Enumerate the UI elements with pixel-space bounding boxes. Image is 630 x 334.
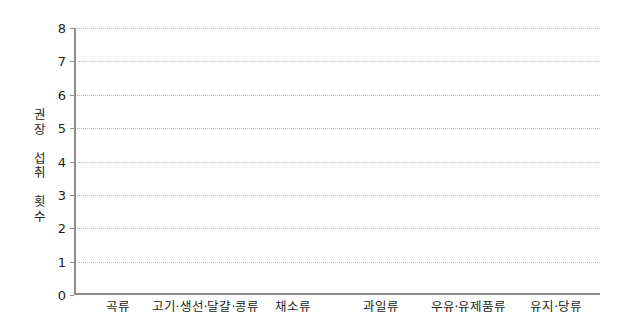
x-axis-labels: 곡류고기·생선·달걀·콩류채소류과일류우유·유제품류유지·당류 — [74, 299, 600, 319]
y-axis-title: 권 장 섭 취 횟 수 — [27, 108, 53, 224]
gridline — [75, 28, 600, 29]
plot-area: 012345678 — [74, 28, 600, 295]
y-axis-tick-label: 3 — [58, 188, 66, 201]
x-axis-line — [74, 293, 600, 295]
x-axis-tick-label: 유지·당류 — [530, 299, 582, 315]
y-axis-tick-label: 6 — [58, 88, 66, 101]
x-axis-tick-label: 과일류 — [363, 299, 399, 315]
y-axis-tick-label: 1 — [58, 255, 66, 268]
y-axis-tick-label: 8 — [58, 22, 66, 35]
gridline — [75, 61, 600, 62]
y-axis-tick-label: 2 — [58, 222, 66, 235]
y-axis-tick-label: 7 — [58, 55, 66, 68]
gridline — [75, 262, 600, 263]
gridline — [75, 128, 600, 129]
gridline — [75, 95, 600, 96]
y-axis-tick-label: 0 — [58, 289, 66, 302]
chart-figure: 권 장 섭 취 횟 수 012345678 곡류고기·생선·달걀·콩류채소류과일… — [0, 0, 630, 334]
y-axis-tick-mark — [70, 295, 74, 296]
x-axis-tick-label: 곡류 — [106, 299, 130, 315]
x-axis-tick-label: 우유·유제품류 — [431, 299, 507, 315]
y-axis-tick-label: 5 — [58, 122, 66, 135]
y-axis-tick-label: 4 — [58, 155, 66, 168]
x-axis-tick-label: 고기·생선·달걀·콩류 — [152, 299, 260, 315]
gridline — [75, 162, 600, 163]
gridline — [75, 228, 600, 229]
y-axis-line — [74, 28, 76, 295]
x-axis-tick-label: 채소류 — [275, 299, 311, 315]
gridline — [75, 195, 600, 196]
